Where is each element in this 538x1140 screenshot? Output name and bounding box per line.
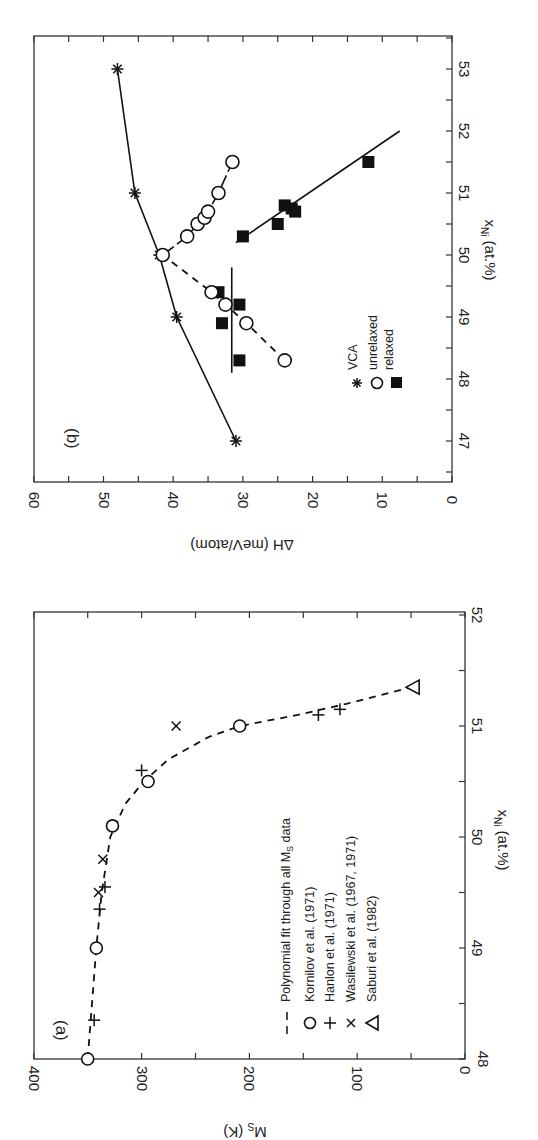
kornilov-circle-marker xyxy=(90,942,102,954)
legend-circle-icon xyxy=(305,1018,316,1029)
relaxed-square-marker xyxy=(216,317,228,329)
figure: 010203040506047484950515253 VCAunrelaxed… xyxy=(0,0,538,1140)
panel-b-xlabel: xNi (at.%) xyxy=(479,219,499,280)
b-y-tick-label: 60 xyxy=(26,492,43,509)
panel-b-ylabel: ΔH (meV/atom) xyxy=(190,537,293,554)
b-legend-label-1: unrelaxed xyxy=(366,315,380,370)
panel-b-label: (b) xyxy=(63,428,82,449)
b-y-tick-label: 50 xyxy=(96,492,113,509)
unrelaxed-circle-marker xyxy=(226,156,239,169)
unrelaxed-circle-marker xyxy=(202,205,215,218)
b-x-tick-label: 47 xyxy=(456,433,473,450)
unrelaxed-circle-marker xyxy=(219,298,232,311)
unrelaxed-circle-marker xyxy=(181,230,194,243)
panel-b-frame xyxy=(34,36,452,482)
b-y-tick-label: 0 xyxy=(444,496,461,504)
b-x-tick-label: 51 xyxy=(456,185,473,202)
a-x-tick-label: 50 xyxy=(469,829,486,846)
b-legend-label-0: VCA xyxy=(346,344,360,370)
b-legend-label-2: relaxed xyxy=(382,329,396,370)
panel-b: 010203040506047484950515253 VCAunrelaxed… xyxy=(26,36,499,554)
relaxed-square-marker xyxy=(272,218,284,230)
a-y-tick-label: 300 xyxy=(134,1066,151,1091)
relaxed-fit-line xyxy=(236,131,400,243)
relaxed-square-marker xyxy=(233,354,245,366)
unrelaxed-circle-marker xyxy=(212,187,225,200)
b-x-tick-label: 50 xyxy=(456,247,473,264)
a-legend-label-0: Polynomial fit through all MS data xyxy=(279,818,295,1002)
legend-circle-icon xyxy=(372,378,383,389)
b-x-tick-label: 52 xyxy=(456,123,473,140)
saburi-triangle-marker xyxy=(406,680,419,694)
b-y-tick-label: 40 xyxy=(165,492,182,509)
b-y-tick-label: 10 xyxy=(374,492,391,509)
panel-a-ylabel: MS (K) xyxy=(223,1121,266,1140)
a-x-tick-label: 51 xyxy=(469,718,486,735)
panel-a-legend: Polynomial fit through all MS dataKornil… xyxy=(279,818,379,1034)
panel-a-label: (a) xyxy=(52,1020,71,1041)
panel-a-frame xyxy=(34,612,465,1059)
kornilov-circle-marker xyxy=(234,720,246,732)
unrelaxed-circle-marker xyxy=(240,317,253,330)
panel-a-points xyxy=(82,680,419,1065)
relaxed-square-marker xyxy=(362,156,374,168)
vca-line xyxy=(117,69,235,441)
unrelaxed-circle-marker xyxy=(205,286,218,299)
kornilov-circle-marker xyxy=(82,1053,94,1065)
b-y-tick-label: 20 xyxy=(305,492,322,509)
panel-b-legend: VCAunrelaxedrelaxed xyxy=(346,315,402,388)
kornilov-circle-marker xyxy=(106,820,118,832)
a-x-tick-label: 49 xyxy=(469,940,486,957)
unrelaxed-upper-line xyxy=(163,162,233,255)
a-y-tick-label: 200 xyxy=(241,1066,258,1091)
b-x-tick-label: 53 xyxy=(456,61,473,78)
legend-square-icon xyxy=(391,377,402,388)
relaxed-square-marker xyxy=(279,199,291,211)
relaxed-square-marker xyxy=(233,299,245,311)
a-x-tick-label: 52 xyxy=(469,607,486,624)
a-y-tick-label: 100 xyxy=(349,1066,366,1091)
legend-triangle-icon xyxy=(366,1016,378,1030)
a-legend-label-2: Hanlon et al. (1971) xyxy=(323,892,337,1002)
b-y-tick-label: 30 xyxy=(235,492,252,509)
panel-b-ticks: 010203040506047484950515253 xyxy=(26,36,473,508)
polynomial-fit-line xyxy=(88,687,413,1059)
panel-b-points xyxy=(111,63,374,447)
panel-a: 01002003004004849505152 Polynomial fit t… xyxy=(26,607,512,1140)
a-y-tick-label: 0 xyxy=(457,1066,474,1074)
b-x-tick-label: 48 xyxy=(456,371,473,388)
unrelaxed-circle-marker xyxy=(156,249,169,262)
a-legend-label-1: Kornilov et al. (1971) xyxy=(303,887,317,1002)
a-x-tick-label: 48 xyxy=(475,1051,492,1068)
panel-a-lines xyxy=(88,687,413,1059)
panel-a-ticks: 01002003004004849505152 xyxy=(26,607,492,1091)
a-y-tick-label: 400 xyxy=(26,1066,43,1091)
unrelaxed-circle-marker xyxy=(278,354,291,367)
relaxed-square-marker xyxy=(237,230,249,242)
b-x-tick-label: 49 xyxy=(456,309,473,326)
panel-a-xlabel: xNi (at.%) xyxy=(492,809,512,870)
a-legend-label-4: Saburi et al. (1982) xyxy=(365,896,379,1002)
kornilov-circle-marker xyxy=(142,776,154,788)
a-legend-label-3: Wasilewski et al. (1967, 1971) xyxy=(344,836,358,1002)
